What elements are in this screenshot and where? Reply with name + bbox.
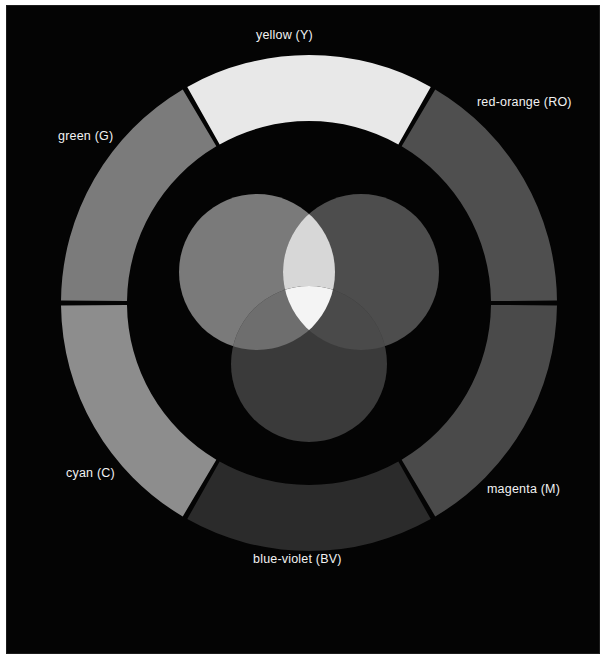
wheel-segment-blue-violet	[187, 462, 430, 551]
figure-canvas: yellow (Y) red-orange (RO) green (G) cya…	[0, 0, 606, 660]
additive-venn-svg	[179, 190, 439, 455]
wheel-label-blue-violet: blue-violet (BV)	[253, 553, 342, 566]
wheel-label-green: green (G)	[58, 130, 113, 143]
additive-venn-diagram	[179, 190, 439, 455]
wheel-segment-yellow	[187, 55, 430, 144]
wheel-label-red-orange: red-orange (RO)	[477, 96, 572, 109]
wheel-label-yellow: yellow (Y)	[256, 29, 313, 42]
black-plate-background: yellow (Y) red-orange (RO) green (G) cya…	[6, 5, 600, 654]
wheel-label-cyan: cyan (C)	[66, 467, 115, 480]
wheel-label-magenta: magenta (M)	[487, 483, 560, 496]
